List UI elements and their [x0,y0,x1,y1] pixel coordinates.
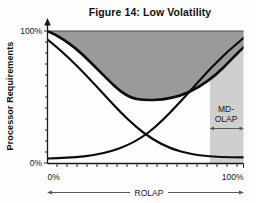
x-tick-label-left: 0% [48,172,61,182]
md-olap-label-line2: OLAP [215,114,238,124]
y-tick-label-top: 100% [20,26,42,36]
y-axis-title: Processor Requirements [5,42,15,151]
md-olap-label-line1: MD- [218,104,234,114]
x-tick-label-right: 100% [222,172,244,182]
figure-container: Figure 14: Low Volatility Processor Requ… [0,0,256,203]
y-tick-label-bottom: 0% [30,158,43,168]
low-volatility-chart: Figure 14: Low Volatility Processor Requ… [0,0,256,203]
rolap-axis-label: ROLAP [135,188,164,198]
chart-title: Figure 14: Low Volatility [89,6,212,18]
